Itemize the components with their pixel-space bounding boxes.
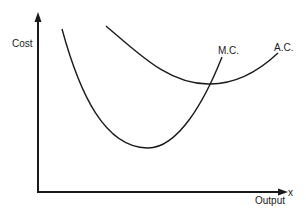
x-axis-label: Output — [255, 195, 285, 206]
y-axis-label: Cost — [12, 38, 33, 49]
y-axis-arrowhead-icon — [35, 12, 42, 22]
marginal-cost-curve — [62, 29, 222, 148]
x-axis-symbol: x — [288, 187, 293, 198]
cost-curves-diagram: Cost Output x M.C. A.C. — [0, 0, 306, 217]
ac-label: A.C. — [274, 42, 293, 53]
average-cost-curve — [106, 26, 278, 84]
mc-label: M.C. — [218, 45, 239, 56]
y-axis — [35, 12, 42, 192]
x-axis — [37, 189, 288, 196]
